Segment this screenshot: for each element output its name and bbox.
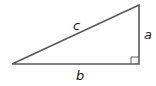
right-triangle-diagram: c a b <box>0 0 156 86</box>
hypotenuse-label-c: c <box>73 18 80 33</box>
triangle-shape <box>12 5 139 64</box>
right-angle-marker <box>131 57 139 64</box>
leg-label-b: b <box>76 68 84 83</box>
leg-label-a: a <box>144 27 152 42</box>
